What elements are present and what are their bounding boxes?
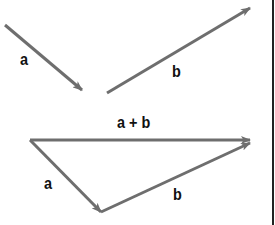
top-vector-a-arrow	[5, 25, 82, 90]
bottom-vector-a-arrow	[30, 140, 101, 212]
bottom-vector-b-label: b	[173, 186, 182, 203]
top-vector-b-label: b	[172, 63, 181, 80]
bottom-vector-a-label: a	[44, 175, 52, 192]
vector-addition-diagram: a b a + b a b	[0, 0, 275, 225]
sum-vector-label: a + b	[117, 114, 150, 131]
top-vector-a-label: a	[20, 51, 28, 68]
right-border-line	[272, 0, 274, 225]
